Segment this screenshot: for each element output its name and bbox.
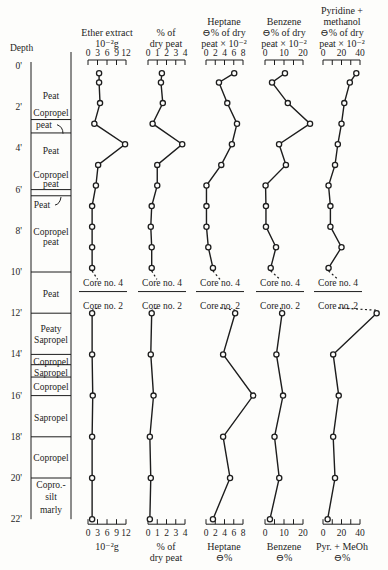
data-point bbox=[160, 100, 165, 105]
core-upper-label: Core no. 4 bbox=[318, 278, 358, 288]
depth-tick-label: 12' bbox=[11, 308, 23, 318]
panel-title: Heptane bbox=[207, 16, 241, 27]
x-tick-label: 6 bbox=[105, 48, 110, 58]
data-point bbox=[155, 162, 160, 167]
depth-axis-title: Depth bbox=[10, 43, 33, 53]
data-point bbox=[210, 517, 215, 522]
core-upper-label: Core no. 4 bbox=[142, 278, 182, 288]
x-tick-label: 3 bbox=[173, 528, 178, 538]
panel-bottom-title: Heptane bbox=[207, 541, 241, 552]
data-point bbox=[331, 434, 336, 439]
data-point bbox=[149, 311, 154, 316]
data-point bbox=[328, 203, 333, 208]
depth-tick-label: 4' bbox=[16, 143, 23, 153]
layer-label: Copropel bbox=[33, 382, 69, 392]
data-point bbox=[90, 224, 95, 229]
layer-label: Copropel bbox=[33, 227, 69, 237]
data-point bbox=[216, 80, 221, 85]
data-point bbox=[332, 475, 337, 480]
data-point bbox=[276, 142, 281, 147]
layer-label: Sapropel bbox=[34, 413, 68, 423]
data-point bbox=[374, 311, 379, 316]
x-tick-label: 12 bbox=[121, 48, 131, 58]
data-point bbox=[331, 352, 336, 357]
panel-bottom-title: Pyr. + MeOh bbox=[316, 541, 368, 552]
data-point bbox=[210, 265, 215, 270]
core-lower-label: Core no. 2 bbox=[260, 301, 300, 311]
layer-label: Sapropel bbox=[34, 368, 68, 378]
x-tick-label: 4 bbox=[183, 528, 188, 538]
x-tick-label: 2 bbox=[213, 528, 218, 538]
data-point bbox=[90, 393, 95, 398]
data-point bbox=[263, 224, 268, 229]
depth-tick-label: 22' bbox=[11, 514, 23, 524]
x-tick-label: 0 bbox=[86, 48, 91, 58]
data-point bbox=[336, 393, 341, 398]
data-point bbox=[267, 517, 272, 522]
series-line-lower bbox=[328, 313, 377, 519]
panel-bottom-title: % of bbox=[156, 541, 176, 552]
panel-title: Benzene bbox=[267, 16, 302, 27]
x-tick-label: 0 bbox=[204, 528, 209, 538]
panel-bottom-title: ⊖% bbox=[276, 552, 293, 563]
data-point bbox=[147, 434, 152, 439]
layer-label: peat bbox=[43, 179, 59, 189]
x-tick-label: 40 bbox=[355, 48, 365, 58]
x-tick-label: 0 bbox=[86, 528, 91, 538]
x-tick-label: 40 bbox=[355, 528, 365, 538]
x-tick-label: 10 bbox=[279, 528, 289, 538]
panel-title: ⊖% of dry bbox=[202, 27, 245, 38]
data-point bbox=[204, 224, 209, 229]
x-tick-label: 3 bbox=[95, 48, 100, 58]
data-point bbox=[277, 475, 282, 480]
layer-label: Peat bbox=[43, 91, 60, 101]
depth-tick-label: 18' bbox=[11, 432, 23, 442]
core-lower-label: Core no. 2 bbox=[318, 301, 358, 311]
x-tick-label: 0 bbox=[321, 528, 326, 538]
layer-label: Copropel bbox=[33, 108, 69, 118]
panel-title: ⊖% of dry bbox=[262, 27, 305, 38]
data-point bbox=[285, 100, 290, 105]
x-tick-label: 8 bbox=[241, 528, 246, 538]
series-line-lower bbox=[270, 313, 283, 519]
x-tick-label: 6 bbox=[231, 48, 236, 58]
data-point bbox=[280, 311, 285, 316]
data-point bbox=[263, 183, 268, 188]
data-point bbox=[282, 71, 287, 76]
data-point bbox=[90, 203, 95, 208]
data-point bbox=[206, 245, 211, 250]
data-point bbox=[147, 517, 152, 522]
series-line-lower bbox=[213, 313, 253, 519]
data-point bbox=[307, 121, 312, 126]
data-point bbox=[269, 80, 274, 85]
data-point bbox=[332, 162, 337, 167]
layer-label: Copropel bbox=[33, 453, 69, 463]
x-tick-label: 2 bbox=[213, 48, 218, 58]
data-point bbox=[96, 80, 101, 85]
data-point bbox=[96, 71, 101, 76]
panel-ether-extract: Ether extract10⁻²g03691203691210⁻²gCore … bbox=[79, 27, 133, 552]
core-lower-label: Core no. 2 bbox=[83, 301, 123, 311]
depth-tick-label: 16' bbox=[11, 391, 23, 401]
core-lower-label: Core no. 2 bbox=[200, 301, 240, 311]
data-point bbox=[90, 475, 95, 480]
data-point bbox=[96, 162, 101, 167]
panel--of-dry-peat: % ofdry peat0123401234% ofdry peatCore n… bbox=[138, 27, 188, 563]
layer-label: peat bbox=[36, 120, 52, 130]
data-point bbox=[326, 183, 331, 188]
data-point bbox=[263, 203, 268, 208]
depth-tick-label: 8' bbox=[16, 226, 23, 236]
x-tick-label: 10 bbox=[279, 48, 289, 58]
data-point bbox=[93, 183, 98, 188]
data-point bbox=[148, 352, 153, 357]
data-point bbox=[227, 475, 232, 480]
x-tick-label: 0 bbox=[146, 48, 151, 58]
depth-tick-label: 14' bbox=[11, 349, 23, 359]
data-point bbox=[283, 162, 288, 167]
data-point bbox=[204, 203, 209, 208]
x-tick-label: 12 bbox=[121, 528, 131, 538]
data-point bbox=[354, 71, 359, 76]
data-point bbox=[326, 265, 331, 270]
layer-label: Peat bbox=[43, 146, 60, 156]
data-point bbox=[90, 517, 95, 522]
